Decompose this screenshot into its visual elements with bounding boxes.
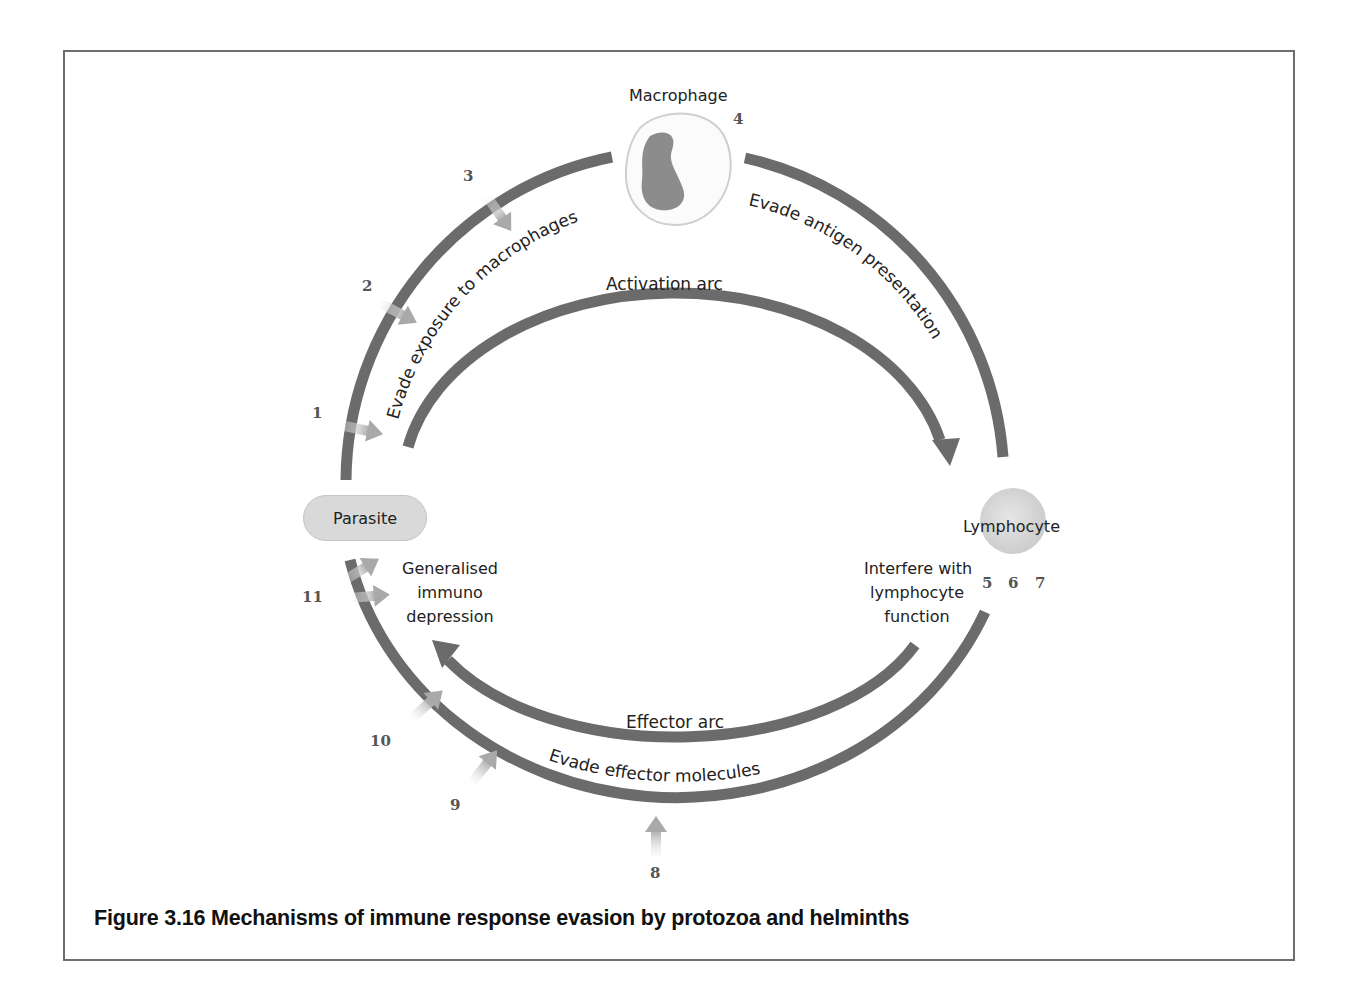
mechanism-number-10: 10	[370, 732, 391, 750]
mechanism-number-3: 3	[463, 167, 473, 185]
mechanism-number-2: 2	[362, 277, 372, 295]
outer-arc-exposure	[346, 157, 612, 480]
immunodepression-label: Generalised immuno depression	[400, 557, 500, 629]
immuno-line-2: immuno	[400, 581, 500, 605]
lymphocyte-label: Lymphocyte	[963, 515, 1060, 539]
effector-arc-label: Effector arc	[626, 710, 724, 734]
mechanism-number-7: 7	[1035, 574, 1045, 592]
mechanism-number-9: 9	[450, 796, 460, 814]
interfere-line-1: Interfere with	[864, 557, 970, 581]
immuno-line-1: Generalised	[400, 557, 500, 581]
figure-caption: Figure 3.16 Mechanisms of immune respons…	[94, 906, 909, 931]
activation-arc-label: Activation arc	[606, 272, 723, 296]
macrophage-cell	[626, 114, 731, 225]
activation-arc	[408, 293, 940, 447]
interfere-lymphocyte-label: Interfere with lymphocyte function	[864, 557, 970, 629]
mechanism-number-5: 5	[982, 574, 992, 592]
parasite-label: Parasite	[333, 509, 397, 528]
activation-arrowhead	[932, 438, 960, 466]
mechanism-number-11: 11	[302, 588, 323, 606]
interfere-line-3: function	[864, 605, 970, 629]
parasite-node: Parasite	[303, 495, 427, 541]
evasion-cycle-diagram: Evade exposure to macrophages Evade anti…	[0, 0, 1365, 993]
mechanism-number-1: 1	[312, 404, 322, 422]
immuno-line-3: depression	[400, 605, 500, 629]
mechanism-number-6: 6	[1008, 574, 1018, 592]
callout-arrow-8	[645, 816, 667, 860]
macrophage-label: Macrophage	[629, 84, 728, 108]
mechanism-number-8: 8	[650, 864, 660, 882]
mechanism-number-4: 4	[733, 110, 743, 128]
interfere-line-2: lymphocyte	[864, 581, 970, 605]
